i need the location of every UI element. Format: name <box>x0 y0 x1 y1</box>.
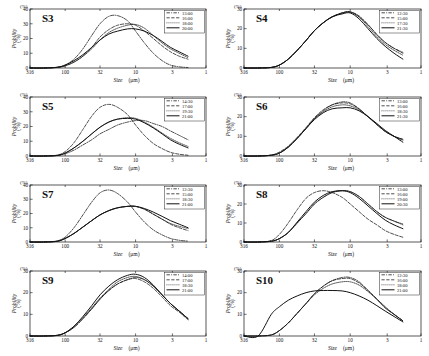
y-axis-tick-label: 20 <box>237 113 243 119</box>
x-axis-tick-label: 3 <box>386 157 389 163</box>
panel-label: S4 <box>256 12 268 24</box>
x-axis-tick-label: 3 <box>386 337 389 343</box>
x-axis-tick-label: 1 <box>420 337 423 343</box>
series-line-2130 <box>244 108 403 156</box>
y-axis-unit: (%) <box>234 180 242 185</box>
x-axis-tick-label: 100 <box>275 157 283 163</box>
x-axis-unit-label: (μm) <box>128 165 139 172</box>
x-axis-tick-label: 100 <box>61 69 69 75</box>
y-axis-tick-label: 20 <box>23 123 29 129</box>
y-axis-unit-label: (%) <box>229 209 236 218</box>
series-line-2100 <box>30 206 188 242</box>
series-line-1430 <box>30 120 188 156</box>
x-axis-unit-label: (μm) <box>343 77 354 84</box>
x-axis-tick-label: 1 <box>205 69 208 75</box>
x-axis-tick-label: 1 <box>420 243 423 249</box>
y-axis-unit: (%) <box>234 92 242 97</box>
x-axis-tick-label: 100 <box>61 157 69 163</box>
y-axis-tick-label: 30 <box>23 109 29 115</box>
x-axis-tick-label: 32 <box>312 69 318 75</box>
panel-s6: 3161003210310102030(%)Probility(%)Size(μ… <box>214 88 429 176</box>
panel-label: S7 <box>42 188 54 200</box>
legend-label: 20:00 <box>182 26 193 31</box>
x-axis-unit-label: (μm) <box>128 77 139 84</box>
x-axis-tick-label: 10 <box>348 69 354 75</box>
y-axis-tick-label: 20 <box>237 201 243 207</box>
series-line-1600 <box>244 191 403 242</box>
series-line-1730 <box>244 12 403 68</box>
panel-s7: 316100321031010203040(%)Probility(%)Size… <box>0 176 214 262</box>
y-axis-unit-label: (%) <box>15 34 22 43</box>
y-axis-tick-label: 20 <box>23 210 29 216</box>
x-axis-tick-label: 32 <box>97 69 103 75</box>
y-axis-tick-label: 10 <box>237 45 243 51</box>
y-axis-tick-label: 0 <box>240 65 243 71</box>
x-axis-tick-label: 10 <box>348 157 354 163</box>
x-axis-tick-label: 3 <box>171 69 174 75</box>
y-axis-tick-label: 0 <box>240 153 243 159</box>
panel-s5-plot: 316100321031010203040(%)Probility(%)Size… <box>0 88 214 176</box>
legend-label: 20:30 <box>397 202 408 207</box>
panel-label: S5 <box>42 100 54 112</box>
y-axis-unit-label: (%) <box>229 299 236 308</box>
x-axis-tick-label: 100 <box>61 337 69 343</box>
legend-label: 21:00 <box>182 288 193 293</box>
y-axis-tick-label: 10 <box>23 311 29 317</box>
x-axis-tick-label: 100 <box>61 243 69 249</box>
x-axis-tick-label: 3 <box>386 69 389 75</box>
y-axis-unit-label: (%) <box>15 122 22 131</box>
y-axis-unit-label: (%) <box>15 209 22 218</box>
x-axis-unit-label: (μm) <box>343 345 354 352</box>
series-line-1500 <box>30 206 188 242</box>
x-axis-tick-label: 3 <box>171 337 174 343</box>
y-axis-tick-label: 20 <box>23 35 29 41</box>
x-axis-unit-label: (μm) <box>128 345 139 352</box>
panel-s3-plot: 316100321031010203040(%)Probility(%)Size… <box>0 0 214 88</box>
y-axis-tick-label: 30 <box>23 196 29 202</box>
y-axis-tick-label: 20 <box>23 289 29 295</box>
y-axis-tick-label: 10 <box>23 138 29 144</box>
x-axis-tick-label: 10 <box>133 337 139 343</box>
x-axis-tick-label: 32 <box>97 243 103 249</box>
panel-s8: 3161003210310102030(%)Probility(%)Size(μ… <box>214 176 429 262</box>
y-axis-unit-label: (%) <box>229 34 236 43</box>
y-axis-unit: (%) <box>20 266 28 271</box>
panel-s10: 3161003210310102030(%)Probility(%)Size(μ… <box>214 262 429 356</box>
panel-s6-plot: 3161003210310102030(%)Probility(%)Size(μ… <box>214 88 429 176</box>
legend-label: 21:00 <box>397 288 408 293</box>
legend-label: 21:30 <box>397 26 408 31</box>
x-axis-tick-label: 1 <box>205 337 208 343</box>
panel-s4: 3161003210310102030(%)Probility(%)Size(μ… <box>214 0 429 88</box>
panel-s8-plot: 3161003210310102030(%)Probility(%)Size(μ… <box>214 176 429 262</box>
x-axis-tick-label: 32 <box>312 243 318 249</box>
series-line-2100 <box>244 290 403 337</box>
legend-label: 21:30 <box>397 114 408 119</box>
y-axis-unit-label: (%) <box>229 122 236 131</box>
x-axis-tick-label: 10 <box>348 243 354 249</box>
x-axis-title: Size <box>328 77 338 83</box>
x-axis-tick-label: 32 <box>312 157 318 163</box>
y-axis-tick-label: 0 <box>26 65 29 71</box>
y-axis-unit: (%) <box>20 180 28 185</box>
x-axis-unit-label: (μm) <box>343 251 354 258</box>
x-axis-tick-label: 3 <box>171 157 174 163</box>
panel-s7-plot: 316100321031010203040(%)Probility(%)Size… <box>0 176 214 262</box>
panel-s5: 316100321031010203040(%)Probility(%)Size… <box>0 88 214 176</box>
x-axis-tick-label: 1 <box>420 69 423 75</box>
y-axis-tick-label: 20 <box>237 289 243 295</box>
y-axis-tick-label: 0 <box>26 333 29 339</box>
y-axis-tick-label: 10 <box>237 311 243 317</box>
x-axis-tick-label: 1 <box>420 157 423 163</box>
x-axis-tick-label: 1 <box>205 157 208 163</box>
series-line-1930 <box>30 118 188 156</box>
series-line-2100 <box>30 118 188 156</box>
legend-label: 21:00 <box>182 202 193 207</box>
x-axis-tick-label: 10 <box>133 243 139 249</box>
y-axis-tick-label: 10 <box>237 220 243 226</box>
y-axis-unit: (%) <box>20 92 28 97</box>
y-axis-tick-label: 30 <box>23 21 29 27</box>
y-axis-tick-label: 0 <box>240 333 243 339</box>
x-axis-title: Size <box>113 251 123 257</box>
y-axis-tick-label: 0 <box>240 239 243 245</box>
y-axis-unit: (%) <box>234 4 242 9</box>
